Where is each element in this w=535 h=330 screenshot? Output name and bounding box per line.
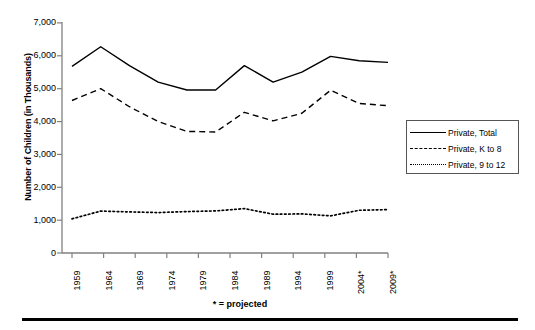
bottom-divider xyxy=(22,318,518,321)
series-line-private-total xyxy=(72,47,388,90)
legend-item-label: Private, Total xyxy=(448,128,497,138)
x-tick-label: 1984 xyxy=(231,271,240,317)
x-tick-label: 1979 xyxy=(199,271,208,317)
legend-swatch-dashed-icon xyxy=(410,144,446,154)
chart-footnote: * = projected xyxy=(150,299,330,309)
series-line-private-k-to-8 xyxy=(72,89,388,132)
chart-figure: Number of Children (in Thousands) 7,000 … xyxy=(0,0,535,330)
x-tick-marks xyxy=(72,253,388,258)
legend-item: Private, K to 8 xyxy=(410,141,515,157)
y-tick-marks xyxy=(57,23,62,253)
legend-item-label: Private, 9 to 12 xyxy=(448,160,505,170)
x-tick-label: 1999 xyxy=(325,271,334,317)
chart-legend: Private, Total Private, K to 8 Private, … xyxy=(406,120,519,174)
x-tick-label: 1994 xyxy=(294,271,303,317)
x-tick-label: 1964 xyxy=(104,271,113,317)
legend-swatch-dotted-icon xyxy=(410,160,446,170)
x-tick-label: 1989 xyxy=(262,271,271,317)
x-tick-label: 2009* xyxy=(389,271,398,317)
legend-item: Private, 9 to 12 xyxy=(410,157,515,173)
legend-item-label: Private, K to 8 xyxy=(448,144,501,154)
series-line-private-9-to-12 xyxy=(72,209,388,219)
x-tick-label: 1974 xyxy=(167,271,176,317)
legend-item: Private, Total xyxy=(410,125,515,141)
x-tick-label: 1959 xyxy=(73,271,82,317)
x-tick-label: 1969 xyxy=(136,271,145,317)
legend-swatch-solid-icon xyxy=(410,128,446,138)
x-tick-label: 2004* xyxy=(357,271,366,317)
